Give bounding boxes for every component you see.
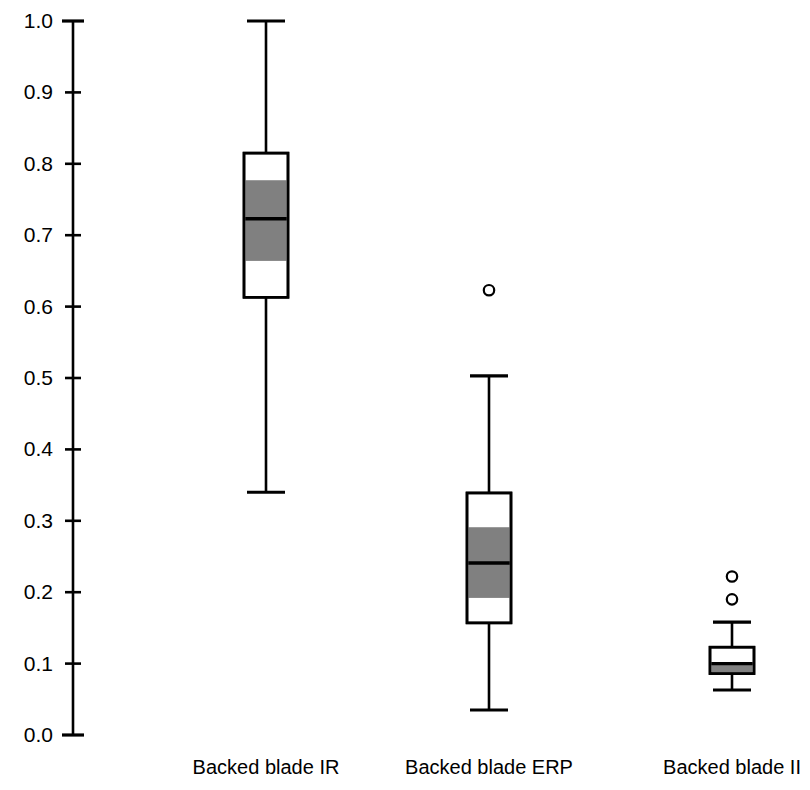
y-tick-label: 0.8	[5, 153, 53, 174]
box-plot-1	[244, 21, 288, 492]
y-tick-label: 0.3	[5, 510, 53, 531]
y-tick-label: 0.5	[5, 367, 53, 388]
x-category-label: Backed blade II	[663, 756, 801, 779]
x-category-label: Backed blade ERP	[405, 756, 573, 779]
notch-band	[245, 180, 286, 261]
y-tick-label: 0.7	[5, 224, 53, 245]
y-tick-label: 0.2	[5, 581, 53, 602]
box-plot-3	[710, 571, 754, 690]
outlier-point	[727, 571, 737, 581]
y-tick-label: 0.1	[5, 653, 53, 674]
y-tick-label: 1.0	[5, 10, 53, 31]
y-tick-label: 0.0	[5, 724, 53, 745]
y-tick-label: 0.4	[5, 438, 53, 459]
x-category-label: Backed blade IR	[193, 756, 340, 779]
y-axis	[62, 21, 84, 735]
boxplot-chart: 1.00.90.80.70.60.50.40.30.20.10.0 Backed…	[0, 0, 810, 790]
box-series	[244, 21, 754, 710]
outlier-point	[727, 594, 737, 604]
box-plot-2	[467, 285, 511, 710]
boxplot-canvas	[0, 0, 810, 790]
outlier-point	[484, 285, 494, 295]
y-tick-label: 0.6	[5, 296, 53, 317]
y-tick-label: 0.9	[5, 81, 53, 102]
